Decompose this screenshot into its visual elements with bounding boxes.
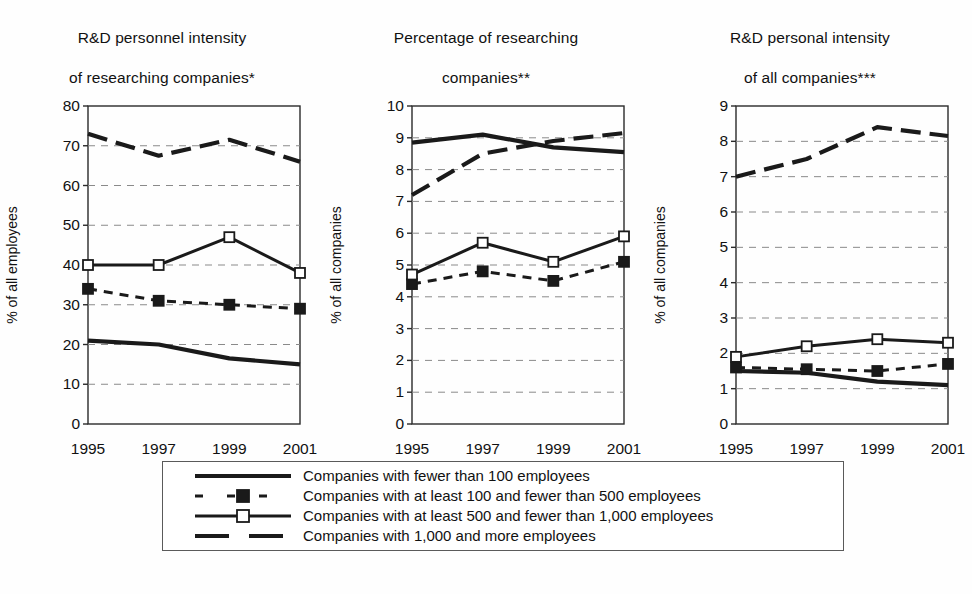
chart-panels: R&D personnel intensity of researching c… — [0, 0, 972, 452]
y-axis-tick-label: 5 — [688, 238, 728, 256]
legend-item[interactable]: Companies with 1,000 and more employees — [163, 526, 843, 546]
y-axis-tick-label: 80 — [40, 97, 80, 115]
y-axis-tick-label: 10 — [40, 375, 80, 393]
series-line — [412, 236, 624, 274]
x-axis-tick-label: 1999 — [860, 440, 894, 458]
chart-3-title-line1: R&D personal intensity — [648, 28, 972, 48]
filled-square-marker — [83, 284, 93, 294]
y-axis-tick-label: 9 — [364, 129, 404, 147]
y-axis-tick-label: 20 — [40, 336, 80, 354]
open-square-marker — [224, 232, 234, 242]
series-line — [88, 237, 300, 273]
legend-key-icon — [183, 486, 303, 506]
y-axis-tick-label: 6 — [364, 224, 404, 242]
y-axis-tick-label: 8 — [364, 161, 404, 179]
chart-3-plot-area: 01234567891995199719992001% of all compa… — [648, 96, 972, 452]
filled-square-marker — [478, 266, 488, 276]
open-square-marker — [83, 260, 93, 270]
y-axis-tick-label: 7 — [364, 192, 404, 210]
legend-item-label: Companies with at least 100 and fewer th… — [303, 486, 701, 506]
open-square-marker — [548, 257, 558, 267]
legend-item-label: Companies with at least 500 and fewer th… — [303, 506, 713, 526]
legend-key-icon — [183, 506, 303, 526]
series-line — [736, 127, 948, 176]
series-line — [736, 371, 948, 385]
chart-panel-3: R&D personal intensity of all companies*… — [648, 0, 972, 452]
y-axis-tick-label: 0 — [688, 415, 728, 433]
y-axis-tick-label: 10 — [364, 97, 404, 115]
legend-key-long-dash — [183, 526, 303, 546]
filled-square-marker — [224, 300, 234, 310]
x-axis-tick-label: 1995 — [395, 440, 429, 458]
y-axis-tick-label: 70 — [40, 137, 80, 155]
chart-2-title-line2: companies** — [324, 68, 648, 88]
legend-key-solid — [183, 506, 303, 526]
legend-key-icon — [183, 466, 303, 486]
chart-1-title-line1: R&D personnel intensity — [0, 28, 324, 48]
y-axis-tick-label: 60 — [40, 177, 80, 195]
y-axis-tick-label: 8 — [688, 132, 728, 150]
x-axis-tick-label: 1997 — [141, 440, 175, 458]
legend-item[interactable]: Companies with at least 100 and fewer th… — [163, 486, 843, 506]
x-axis-tick-label: 1997 — [465, 440, 499, 458]
filled-square-marker — [548, 276, 558, 286]
y-axis-tick-label: 40 — [40, 256, 80, 274]
filled-square-marker — [943, 359, 953, 369]
y-axis-tick-label: 4 — [364, 288, 404, 306]
chart-1-title-line2: of researching companies* — [0, 68, 324, 88]
chart-panel-2: Percentage of researching companies** 01… — [324, 0, 648, 452]
y-axis-tick-label: 5 — [364, 256, 404, 274]
legend-rows: Companies with fewer than 100 employeesC… — [163, 462, 843, 550]
y-axis-tick-label: 6 — [688, 203, 728, 221]
y-axis-tick-label: 50 — [40, 216, 80, 234]
y-axis-title: % of all companies — [652, 206, 668, 324]
open-square-marker — [237, 510, 249, 522]
x-axis-tick-label: 1997 — [789, 440, 823, 458]
legend: Companies with fewer than 100 employeesC… — [162, 461, 844, 551]
series-line — [736, 339, 948, 357]
y-axis-tick-label: 4 — [688, 274, 728, 292]
x-axis-tick-label: 2001 — [607, 440, 641, 458]
open-square-marker — [731, 352, 741, 362]
chart-panel-1: R&D personnel intensity of researching c… — [0, 0, 324, 452]
y-axis-tick-label: 0 — [364, 415, 404, 433]
y-axis-tick-label: 3 — [688, 309, 728, 327]
legend-item-label: Companies with 1,000 and more employees — [303, 526, 596, 546]
x-axis-tick-label: 2001 — [931, 440, 965, 458]
filled-square-marker — [731, 362, 741, 372]
filled-square-marker — [237, 490, 249, 502]
y-axis-tick-label: 2 — [364, 351, 404, 369]
open-square-marker — [619, 231, 629, 241]
legend-item[interactable]: Companies with fewer than 100 employees — [163, 466, 843, 486]
y-axis-tick-label: 1 — [688, 380, 728, 398]
open-square-marker — [295, 268, 305, 278]
legend-key-solid-thick — [183, 466, 303, 486]
chart-3-title-line2: of all companies*** — [648, 68, 972, 88]
series-line — [88, 289, 300, 309]
y-axis-tick-label: 9 — [688, 97, 728, 115]
filled-square-marker — [872, 366, 882, 376]
y-axis-tick-label: 1 — [364, 383, 404, 401]
legend-item-label: Companies with fewer than 100 employees — [303, 466, 590, 486]
open-square-marker — [802, 341, 812, 351]
y-axis-tick-label: 2 — [688, 344, 728, 362]
chart-1-plot-area: 010203040506070801995199719992001% of al… — [0, 96, 324, 452]
filled-square-marker — [619, 257, 629, 267]
y-axis-title: % of all companies — [328, 206, 344, 324]
open-square-marker — [872, 334, 882, 344]
filled-square-marker — [802, 364, 812, 374]
filled-square-marker — [407, 279, 417, 289]
legend-item[interactable]: Companies with at least 500 and fewer th… — [163, 506, 843, 526]
filled-square-marker — [154, 296, 164, 306]
chart-1-title: R&D personnel intensity of researching c… — [0, 8, 324, 108]
filled-square-marker — [295, 304, 305, 314]
x-axis-tick-label: 2001 — [283, 440, 317, 458]
chart-2-title: Percentage of researching companies** — [324, 8, 648, 108]
open-square-marker — [943, 338, 953, 348]
x-axis-tick-label: 1999 — [212, 440, 246, 458]
x-axis-tick-label: 1995 — [719, 440, 753, 458]
y-axis-tick-label: 30 — [40, 296, 80, 314]
chart-2-plot-area: 0123456789101995199719992001% of all com… — [324, 96, 648, 452]
y-axis-tick-label: 7 — [688, 168, 728, 186]
open-square-marker — [154, 260, 164, 270]
